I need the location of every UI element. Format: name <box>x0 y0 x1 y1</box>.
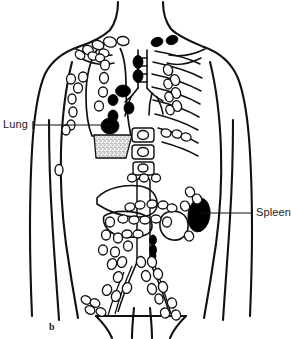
node-paratracheal-left-3 <box>99 87 108 97</box>
inner-arm-left-outline <box>49 120 59 320</box>
figure-letter-label: b <box>49 322 55 332</box>
node-axillary-left-4 <box>68 94 76 104</box>
rib-right-6 <box>155 114 198 130</box>
node-paraaortic-left-2 <box>129 216 140 225</box>
anatomical-figure: Lung Spleen b <box>0 0 291 339</box>
uninvolved-nodes-group <box>55 36 203 322</box>
node-iliac-right-4 <box>152 268 163 281</box>
node-paratracheal-left-1 <box>101 60 110 70</box>
anatomy-illustration <box>0 0 291 339</box>
node-iliac-left-2 <box>116 255 128 269</box>
vertebra-2 <box>132 145 154 159</box>
torso-side-right-outline <box>204 62 221 318</box>
rib-right-8 <box>162 142 198 156</box>
node-hilar-right-1 <box>124 102 134 114</box>
node-hilar-left-1 <box>116 85 131 97</box>
node-paratracheal-left-2 <box>100 73 109 84</box>
node-upper-abd-1 <box>128 174 137 182</box>
node-mesenteric-1 <box>106 217 115 227</box>
node-mesenteric-4 <box>99 245 108 255</box>
bronchus-right-branch-b <box>149 93 152 115</box>
node-paraaortic-left-5 <box>162 216 173 228</box>
node-celiac-3 <box>147 199 158 208</box>
node-upper-abd-2 <box>140 174 149 182</box>
bronchus-right-main <box>147 88 163 101</box>
inner-arm-right-outline <box>223 120 233 320</box>
node-upper-abd-3 <box>152 174 161 182</box>
node-celiac-2 <box>134 200 145 209</box>
node-iliac-left-4 <box>121 281 133 295</box>
node-celiac-1 <box>124 202 135 212</box>
node-celiac-5 <box>166 203 177 212</box>
annotation-label-spleen: Spleen <box>256 207 291 218</box>
pleural-effusion-fill <box>94 135 132 158</box>
node-paraaortic-left-3 <box>140 216 150 224</box>
groin-left-outline <box>96 316 112 338</box>
node-paraaortic-left-1 <box>117 214 128 223</box>
node-arm-left-1 <box>55 165 63 176</box>
vertebra-3 <box>133 162 154 175</box>
node-mesenteric-6 <box>122 229 133 238</box>
node-axillary-left-3 <box>74 83 83 93</box>
node-mediastinal-2 <box>133 70 143 83</box>
node-mesenteric-8 <box>124 241 133 251</box>
node-splenic-hilum-4 <box>183 230 195 243</box>
node-paraaortic-left-4 <box>151 215 162 224</box>
node-mesenteric-5 <box>111 247 120 257</box>
node-supraclavicular-right-1 <box>150 36 164 48</box>
annotation-label-lung: Lung <box>3 119 28 130</box>
node-rib-right-10 <box>180 132 191 142</box>
node-mesenteric-3 <box>114 233 123 243</box>
node-inguinal-right-3 <box>170 309 182 321</box>
first-rib-right <box>167 58 201 64</box>
pleural-effusion-group <box>94 135 132 158</box>
node-axillary-left-7 <box>62 125 70 135</box>
node-mesenteric-2 <box>102 230 111 240</box>
node-mesenteric-7 <box>133 230 143 238</box>
node-para-aortic-1 <box>150 235 157 245</box>
node-iliac-right-5 <box>146 283 157 296</box>
vertebra-1 <box>132 128 154 142</box>
node-axillary-left-2 <box>79 72 88 82</box>
node-iliac-left-3 <box>112 270 124 284</box>
node-paratracheal-left-4 <box>95 101 104 111</box>
node-iliac-right-3 <box>140 270 151 283</box>
abdominal-organs-group <box>97 177 188 316</box>
node-axillary-left-5 <box>69 107 77 117</box>
node-mediastinal-1 <box>133 56 143 69</box>
crotch-center-right-outline <box>150 308 152 338</box>
node-supraclav-left-3 <box>117 36 130 46</box>
vertebral-bodies-group <box>132 128 154 175</box>
node-iliac-left-1 <box>106 257 118 271</box>
node-supraclavicular-right-2 <box>165 34 179 46</box>
node-axillary-left-1 <box>67 74 76 84</box>
crotch-center-outline <box>132 308 134 338</box>
node-hilar-left-2 <box>108 95 118 106</box>
node-supraclav-left-2 <box>102 36 117 49</box>
node-lung-lesion <box>101 118 119 134</box>
